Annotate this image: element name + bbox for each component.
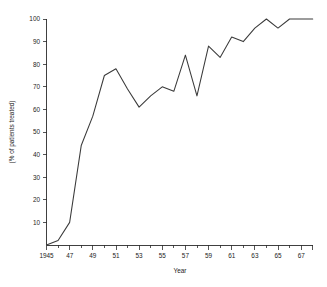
y-tick-label: 60 [33, 106, 41, 113]
x-tick-label: 49 [89, 252, 97, 259]
x-axis-ticks [47, 245, 313, 250]
y-tick-label: 70 [33, 83, 41, 90]
x-tick-label: 61 [228, 252, 236, 259]
y-axis-tick-labels: 100 90 80 70 60 50 40 30 20 10 [29, 15, 40, 225]
x-tick-label: 47 [66, 252, 74, 259]
x-tick-label: 65 [274, 252, 282, 259]
y-axis-title: (% of patients treated) [8, 101, 16, 164]
x-axis-title: Year [174, 267, 188, 274]
x-tick-label: 67 [298, 252, 306, 259]
x-axis-tick-labels: 1945 47 49 51 53 55 57 59 61 63 65 67 [39, 252, 305, 259]
x-tick-label: 53 [136, 252, 144, 259]
x-tick-label: 59 [205, 252, 213, 259]
line-chart: 100 90 80 70 60 50 40 30 20 10 (% of pat… [0, 0, 327, 287]
data-series-group [47, 19, 313, 245]
y-tick-label: 100 [29, 15, 40, 22]
y-tick-label: 80 [33, 61, 41, 68]
x-tick-label: 1945 [39, 252, 54, 259]
y-tick-label: 20 [33, 196, 41, 203]
y-tick-label: 40 [33, 151, 41, 158]
y-tick-label: 30 [33, 174, 41, 181]
y-tick-label: 50 [33, 128, 41, 135]
chart-figure: 100 90 80 70 60 50 40 30 20 10 (% of pat… [0, 0, 327, 287]
y-tick-label: 90 [33, 38, 41, 45]
x-tick-label: 57 [182, 252, 190, 259]
y-axis: 100 90 80 70 60 50 40 30 20 10 (% of pat… [8, 15, 47, 245]
y-axis-ticks [43, 19, 47, 222]
data-line-patients-treated [47, 19, 313, 245]
x-tick-label: 51 [112, 252, 120, 259]
x-tick-label: 55 [159, 252, 167, 259]
x-tick-label: 63 [251, 252, 259, 259]
y-tick-label: 10 [33, 219, 41, 226]
x-axis: 1945 47 49 51 53 55 57 59 61 63 65 67 Ye… [39, 245, 313, 274]
